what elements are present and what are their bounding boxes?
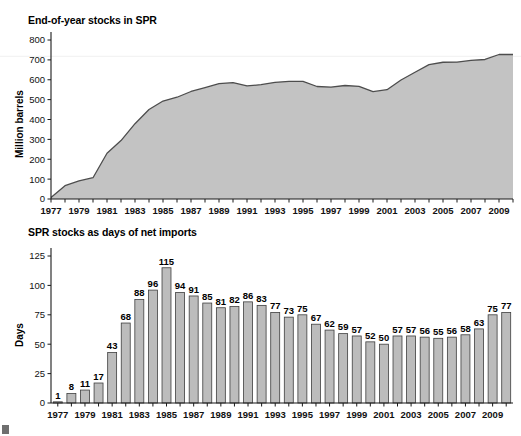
bar-value-label: 57 (406, 324, 417, 335)
bar-value-label: 73 (284, 305, 295, 316)
svg-text:2003: 2003 (404, 205, 425, 215)
bar-value-label: 67 (311, 312, 322, 323)
bar-value-label: 52 (365, 330, 376, 341)
bar-value-label: 63 (474, 317, 485, 328)
svg-text:1981: 1981 (96, 205, 118, 215)
bar (162, 268, 171, 403)
bar (393, 336, 402, 403)
bar-value-label: 86 (243, 290, 254, 301)
figure-root: End-of-year stocks in SPR Million barrel… (0, 0, 521, 436)
bar-value-label: 77 (270, 300, 281, 311)
bar-value-label: 56 (447, 325, 458, 336)
bar-value-label: 58 (460, 323, 471, 334)
svg-text:0: 0 (40, 397, 45, 408)
bar (502, 312, 511, 403)
bar-value-label: 81 (216, 296, 227, 307)
svg-text:1999: 1999 (348, 205, 369, 215)
bar (216, 308, 225, 403)
bar (379, 344, 388, 403)
svg-text:500: 500 (29, 94, 45, 105)
panel-end-of-year-stocks: End-of-year stocks in SPR Million barrel… (0, 14, 521, 214)
bar (80, 390, 89, 403)
bar-value-label: 96 (148, 278, 159, 289)
bar-value-label: 56 (419, 325, 430, 336)
bar (108, 352, 117, 403)
bar (447, 337, 456, 403)
bar-value-label: 82 (229, 294, 240, 305)
svg-text:1995: 1995 (292, 409, 314, 420)
svg-text:1997: 1997 (320, 205, 341, 215)
svg-text:2009: 2009 (488, 205, 509, 215)
svg-text:2007: 2007 (455, 409, 476, 420)
bar (176, 292, 185, 403)
bar-value-label: 85 (202, 291, 213, 302)
panel-days-of-net-imports: SPR stocks as days of net imports Days 1… (0, 226, 521, 426)
svg-text:1985: 1985 (152, 205, 174, 215)
svg-text:2001: 2001 (376, 205, 398, 215)
bar (298, 315, 307, 403)
bar-chart-svg: 1811174368889611594918581828683777375676… (0, 226, 521, 426)
bar (311, 324, 320, 403)
svg-text:50: 50 (34, 339, 45, 350)
svg-text:200: 200 (29, 154, 45, 165)
bar (271, 312, 280, 403)
bar-value-label: 115 (159, 256, 175, 267)
svg-text:1999: 1999 (346, 409, 367, 420)
bar-value-label: 11 (80, 378, 91, 389)
bar-value-label: 68 (120, 311, 131, 322)
svg-text:100: 100 (29, 280, 45, 291)
bar (148, 290, 157, 403)
svg-text:2005: 2005 (428, 409, 450, 420)
bar (325, 330, 334, 403)
svg-text:1993: 1993 (264, 205, 285, 215)
svg-text:1981: 1981 (102, 409, 124, 420)
svg-text:2001: 2001 (373, 409, 395, 420)
bar-value-label: 8 (69, 381, 74, 392)
bar (203, 303, 212, 403)
svg-text:1985: 1985 (156, 409, 178, 420)
svg-text:0: 0 (40, 193, 45, 204)
bar-value-label: 75 (297, 303, 308, 314)
bar-value-label: 55 (433, 326, 444, 337)
bar-value-label: 1 (55, 390, 61, 401)
bar-value-label: 83 (256, 293, 267, 304)
bar-value-label: 57 (392, 324, 403, 335)
svg-text:1989: 1989 (210, 409, 231, 420)
bar (475, 329, 484, 403)
bar (257, 305, 266, 403)
svg-text:1989: 1989 (208, 205, 229, 215)
bar-value-label: 94 (175, 280, 186, 291)
svg-text:2007: 2007 (460, 205, 481, 215)
svg-text:1983: 1983 (129, 409, 150, 420)
bar (434, 338, 443, 403)
svg-text:1991: 1991 (237, 409, 259, 420)
bar-value-label: 62 (324, 318, 335, 329)
svg-text:1977: 1977 (47, 409, 68, 420)
svg-text:1977: 1977 (40, 205, 61, 215)
svg-text:1983: 1983 (124, 205, 145, 215)
svg-text:300: 300 (29, 134, 45, 145)
svg-text:2005: 2005 (432, 205, 454, 215)
bar (420, 337, 429, 403)
bar (121, 323, 130, 403)
svg-text:700: 700 (29, 54, 45, 65)
bar-value-label: 88 (134, 287, 145, 298)
bar-value-label: 59 (338, 321, 349, 332)
bar (244, 302, 253, 403)
area-chart-svg: 0100200300400500600700800197719791981198… (0, 14, 521, 214)
svg-text:1979: 1979 (68, 205, 89, 215)
svg-text:25: 25 (34, 368, 45, 379)
svg-text:800: 800 (29, 34, 45, 45)
svg-text:2003: 2003 (401, 409, 422, 420)
svg-text:600: 600 (29, 74, 45, 85)
svg-text:1987: 1987 (180, 205, 201, 215)
bar-value-label: 77 (501, 300, 512, 311)
bar-value-label: 75 (487, 303, 498, 314)
svg-text:2009: 2009 (482, 409, 503, 420)
bar (189, 296, 198, 403)
page-corner-mark (2, 425, 9, 434)
bar (67, 394, 76, 403)
bar-value-label: 91 (188, 284, 199, 295)
bar (461, 335, 470, 403)
bar-value-label: 57 (351, 324, 362, 335)
